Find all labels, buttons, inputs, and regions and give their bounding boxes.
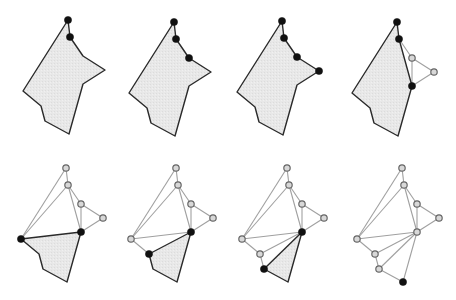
triangulation-edge — [412, 58, 434, 72]
panel-step-7 — [239, 165, 327, 282]
vertex-top-filled — [278, 17, 285, 24]
vertex-v7-filled — [260, 265, 267, 272]
vertex-left-filled — [17, 235, 24, 242]
vertex-v8-hollow — [372, 251, 378, 257]
vertex-tip-hollow — [436, 215, 442, 221]
vertex-v3-hollow — [299, 201, 305, 207]
triangulation-edge — [357, 232, 417, 239]
vertex-top-hollow — [284, 165, 290, 171]
vertex-tip-hollow — [100, 215, 106, 221]
triangulation-edge — [21, 185, 68, 239]
triangulation-diagram — [0, 0, 456, 300]
vertex-v3-hollow — [414, 201, 420, 207]
panel-step-1 — [23, 16, 105, 134]
triangulation-edge — [412, 72, 434, 86]
vertex-v5-filled — [298, 228, 305, 235]
triangulation-edge — [131, 168, 176, 239]
vertex-tip-filled — [315, 67, 322, 74]
vertex-left-hollow — [128, 236, 134, 242]
panel-step-4 — [352, 18, 437, 136]
vertex-v3-hollow — [188, 201, 194, 207]
panel-step-8 — [354, 165, 442, 286]
vertex-v2-hollow — [401, 182, 407, 188]
triangulation-edge — [302, 204, 324, 218]
vertex-top-filled — [170, 18, 177, 25]
triangulation-edge — [302, 218, 324, 232]
vertex-v2-hollow — [175, 182, 181, 188]
triangulation-edge — [131, 185, 178, 239]
triangulation-edge — [191, 204, 213, 218]
triangulation-edge — [417, 218, 439, 232]
panel-step-2 — [129, 18, 211, 136]
vertex-v8-hollow — [257, 251, 263, 257]
triangulation-edge — [357, 185, 404, 239]
vertex-v3-filled — [185, 54, 192, 61]
triangulation-edge — [191, 218, 213, 232]
triangulation-edge — [404, 185, 417, 232]
vertex-tip-hollow — [210, 215, 216, 221]
vertex-v5-filled — [77, 228, 84, 235]
vertex-left-hollow — [239, 236, 245, 242]
triangulation-edge — [375, 232, 417, 254]
triangulation-edge — [242, 232, 302, 239]
vertex-top-filled — [393, 18, 400, 25]
panel-step-5 — [17, 165, 106, 282]
triangulation-edge — [21, 168, 66, 239]
panel-step-6 — [128, 165, 216, 282]
vertex-tip-hollow — [431, 69, 437, 75]
vertex-v8-filled — [145, 250, 152, 257]
triangulation-edge — [81, 204, 103, 218]
vertex-top-hollow — [399, 165, 405, 171]
vertex-top-filled — [64, 16, 71, 23]
vertex-v3-filled — [293, 53, 300, 60]
triangulation-edge — [417, 204, 439, 218]
vertex-v3-hollow — [78, 201, 84, 207]
triangulation-edge — [289, 185, 302, 232]
vertex-left-hollow — [354, 236, 360, 242]
panel-step-3 — [237, 17, 323, 135]
vertex-v5-filled — [187, 228, 194, 235]
vertex-v2-filled — [172, 35, 179, 42]
remaining-region — [264, 232, 302, 282]
vertex-v5-hollow — [414, 229, 420, 235]
vertex-v7-hollow — [376, 266, 382, 272]
remaining-region — [21, 232, 81, 282]
triangulation-edge — [68, 185, 81, 232]
vertex-v2-filled — [280, 34, 287, 41]
triangulation-edge — [242, 185, 289, 239]
vertex-top-hollow — [63, 165, 69, 171]
triangulation-edge — [379, 269, 403, 282]
vertex-v2-hollow — [65, 182, 71, 188]
triangulation-edge — [81, 218, 103, 232]
vertex-v2-filled — [395, 35, 402, 42]
triangulation-edge — [357, 168, 402, 239]
vertex-v5-filled — [408, 82, 415, 89]
vertex-v2-filled — [66, 33, 73, 40]
vertex-v2-hollow — [286, 182, 292, 188]
vertex-top-hollow — [173, 165, 179, 171]
vertex-v3-hollow — [409, 55, 415, 61]
vertex-bottom-filled — [399, 278, 406, 285]
panels-group — [17, 16, 442, 285]
triangulation-edge — [178, 185, 191, 232]
vertex-tip-hollow — [321, 215, 327, 221]
triangulation-edge — [242, 168, 287, 239]
